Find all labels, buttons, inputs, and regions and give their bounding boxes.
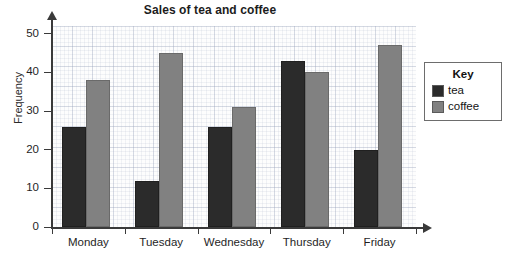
y-tick-40 — [44, 72, 52, 73]
y-tick-10 — [44, 188, 52, 189]
x-tick-wednesday — [198, 227, 199, 234]
y-tick-label-20: 20 — [0, 143, 39, 155]
bar-friday-tea — [354, 150, 378, 227]
y-tick-label-50: 50 — [0, 27, 39, 39]
y-axis-arrow-icon — [47, 11, 57, 20]
bar-monday-tea — [62, 127, 86, 228]
y-tick-0 — [44, 227, 52, 228]
x-axis-line — [51, 227, 425, 229]
x-tick-thursday — [270, 227, 271, 234]
chart-title: Sales of tea and coffee — [0, 3, 420, 17]
legend-swatch-coffee-icon — [432, 101, 444, 113]
y-tick-30 — [44, 111, 52, 112]
y-tick-label-40: 40 — [0, 65, 39, 77]
x-tick-tuesday — [125, 227, 126, 234]
bar-wednesday-coffee — [232, 107, 256, 227]
bar-friday-coffee — [378, 45, 402, 227]
y-tick-label-30: 30 — [0, 104, 39, 116]
bar-monday-coffee — [86, 80, 110, 227]
y-axis-line — [51, 18, 53, 229]
y-tick-50 — [44, 33, 52, 34]
legend-item-coffee: coffee — [432, 100, 494, 113]
bars-layer — [52, 26, 416, 227]
x-axis-arrow-icon — [423, 223, 432, 233]
bar-thursday-coffee — [305, 72, 329, 227]
x-tick-friday — [343, 227, 344, 234]
legend-swatch-tea-icon — [432, 85, 444, 97]
y-tick-label-0: 0 — [0, 220, 39, 232]
bar-tuesday-tea — [135, 181, 159, 227]
legend-key-box: Key tea coffee — [424, 62, 502, 121]
bar-tuesday-coffee — [159, 53, 183, 227]
bar-thursday-tea — [281, 61, 305, 227]
x-tick-end — [416, 227, 417, 234]
legend-label-tea: tea — [448, 84, 464, 97]
x-axis-label-friday: Friday — [335, 236, 425, 248]
y-tick-label-10: 10 — [0, 181, 39, 193]
y-tick-20 — [44, 149, 52, 150]
legend-item-tea: tea — [432, 84, 494, 97]
bar-wednesday-tea — [208, 127, 232, 228]
y-axis-label: Frequency — [12, 48, 24, 148]
legend-label-coffee: coffee — [448, 100, 479, 113]
legend-title: Key — [432, 68, 494, 80]
x-tick-monday — [52, 227, 53, 234]
